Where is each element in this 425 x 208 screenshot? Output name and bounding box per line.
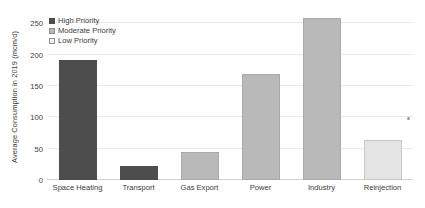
bar-reinjection[interactable]: [364, 140, 402, 180]
legend-item-label: Moderate Priority: [58, 26, 116, 35]
bar-slot: [291, 14, 352, 180]
legend-swatch-icon: [49, 38, 55, 44]
legend-item-moderate[interactable]: Moderate Priority: [49, 26, 116, 35]
bar-slot: [230, 14, 291, 180]
x-axis-tick-label: Transport: [108, 183, 169, 192]
bar-slot: [352, 14, 413, 180]
x-axis-ticks: Space HeatingTransportGas ExportPowerInd…: [47, 183, 413, 192]
x-axis-tick-label: Space Heating: [47, 183, 108, 192]
y-axis-tick-label: 100: [30, 113, 43, 122]
stray-speck-artifact: [407, 117, 410, 120]
chart-legend: High PriorityModerate PriorityLow Priori…: [49, 16, 116, 45]
legend-swatch-icon: [49, 18, 55, 24]
bar-chart: Average Consumption in 2019 (mcm/d) 0501…: [0, 0, 425, 208]
bar-space-heating[interactable]: [59, 60, 97, 180]
y-axis-tick-label: 200: [30, 50, 43, 59]
x-axis-tick-label: Power: [230, 183, 291, 192]
legend-item-low[interactable]: Low Priority: [49, 36, 116, 45]
x-axis-tick-label: Gas Export: [169, 183, 230, 192]
bar-slot: [169, 14, 230, 180]
bar-transport[interactable]: [120, 166, 158, 180]
y-axis-tick-label: 250: [30, 19, 43, 28]
y-axis-tick-label: 50: [35, 144, 43, 153]
y-axis-title: Average Consumption in 2019 (mcm/d): [8, 2, 22, 192]
bar-gas-export[interactable]: [181, 152, 219, 180]
x-axis-tick-label: Reinjection: [352, 183, 413, 192]
bar-slot: [108, 14, 169, 180]
x-axis-tick-label: Industry: [291, 183, 352, 192]
y-axis-tick-label: 150: [30, 82, 43, 91]
bar-power[interactable]: [242, 74, 280, 180]
y-axis-tick-label: 0: [39, 176, 43, 185]
legend-item-high[interactable]: High Priority: [49, 16, 116, 25]
legend-swatch-icon: [49, 28, 55, 34]
legend-item-label: High Priority: [58, 16, 99, 25]
legend-item-label: Low Priority: [58, 36, 98, 45]
bar-industry[interactable]: [303, 18, 341, 180]
